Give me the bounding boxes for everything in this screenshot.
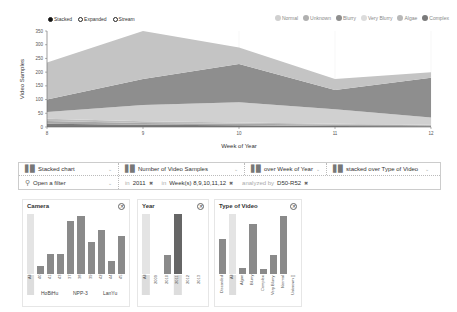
facet-bar-label: Complex <box>260 275 267 295</box>
facet-bar-label: All <box>142 275 150 295</box>
dimension-icon: ▋▉ <box>251 165 261 173</box>
mode-option-expanded[interactable]: Expanded <box>78 16 107 22</box>
svg-text:50: 50 <box>38 111 44 116</box>
measure-icon: ▋▉ <box>125 165 135 173</box>
x-dimension-dropdown[interactable]: ▋▉ over Week of Year ⌄ <box>245 163 327 175</box>
chevron-down-icon: ⌄ <box>108 180 112 186</box>
toolbar-row-filters: ⚲ Open a filter ⌄ in 2011 ✖ in Week(s) 8… <box>19 176 440 189</box>
facet-bar-label: Blurry <box>249 275 256 295</box>
filter-chip-analyzer[interactable]: analyzed by D50-R52 ✖ <box>242 180 308 186</box>
close-icon[interactable]: ✕ <box>197 203 204 210</box>
facet-type-of-video: Type of Video ✕ DiscardedAllAlgaeBlurryC… <box>214 199 302 307</box>
x-dimension-label: over Week of Year <box>264 166 313 172</box>
legend-swatch-icon <box>275 15 281 21</box>
facet-bar-2011[interactable] <box>174 214 182 274</box>
facet-bar-label: 43 <box>57 275 64 295</box>
facet-bar-2009[interactable] <box>153 214 161 274</box>
close-icon[interactable]: ✕ <box>118 203 125 210</box>
facet-bar-45[interactable] <box>118 214 125 274</box>
group-label: NPP-3 <box>73 290 88 296</box>
chart-type-dropdown[interactable]: ▋▉ Stacked chart ⌄ <box>19 163 119 175</box>
svg-text:150: 150 <box>35 83 43 88</box>
legend-swatch-icon <box>303 15 309 21</box>
facet-labels: All20092010201120122013 <box>142 275 204 295</box>
facet-bar-label: Discarded <box>219 275 226 295</box>
measure-dropdown[interactable]: ▋▉ Number of Video Samples ⌄ <box>119 163 245 175</box>
facet-bar-42[interactable] <box>98 214 105 274</box>
facet-bar-label: Very Blurry <box>270 275 277 295</box>
facet-bar-normal[interactable] <box>280 214 287 274</box>
facet-title: Type of Video <box>219 203 258 209</box>
facet-bars <box>142 214 204 274</box>
legend-item[interactable]: Unknown <box>303 15 331 21</box>
chevron-down-icon: ⌄ <box>425 166 429 172</box>
svg-text:300: 300 <box>35 42 43 47</box>
facet-bar-complex[interactable] <box>260 214 267 274</box>
chevron-down-icon: ⌄ <box>108 166 112 172</box>
radio-icon <box>78 17 83 22</box>
chevron-down-icon: ⌄ <box>316 166 320 172</box>
facet-bar-all[interactable] <box>229 214 236 274</box>
facet-bar-label: 2009 <box>153 275 161 295</box>
facet-bar-unknown-[interactable] <box>290 214 297 274</box>
filter-chip-year[interactable]: in 2011 ✖ <box>125 180 153 186</box>
legend-swatch-icon <box>361 15 367 21</box>
stacked-area-chart: 05010015020025030035089101112Week of Yea… <box>0 24 457 154</box>
facet-bar-label: 2011 <box>174 275 182 295</box>
facet-bars <box>219 214 297 274</box>
svg-text:10: 10 <box>236 131 242 136</box>
facet-bar-very-blurry[interactable] <box>270 214 277 274</box>
facet-labels: DiscardedAllAlgaeBlurryComplexVery Blurr… <box>219 275 297 295</box>
remove-filter-icon[interactable]: ✖ <box>304 180 308 186</box>
legend-item[interactable]: Algae <box>397 15 417 21</box>
mode-option-stacked[interactable]: Stacked <box>48 16 72 22</box>
facet-bar-41[interactable] <box>47 214 54 274</box>
svg-text:12: 12 <box>428 131 434 136</box>
svg-text:250: 250 <box>35 56 43 61</box>
svg-text:100: 100 <box>35 97 43 102</box>
facet-bar-algae[interactable] <box>239 214 246 274</box>
radio-icon <box>48 17 53 22</box>
chart-legend: NormalUnknownBlurryVery BlurryAlgaeCompl… <box>275 15 449 21</box>
y-axis-label: Video Samples <box>19 59 25 99</box>
close-icon[interactable]: ✕ <box>290 203 297 210</box>
stack-dimension-label: stacked over Type of Video <box>346 166 418 172</box>
facet-bar-2013[interactable] <box>196 214 204 274</box>
facet-bar-all[interactable] <box>27 214 34 274</box>
search-icon: ⚲ <box>25 179 30 187</box>
legend-item[interactable]: Very Blurry <box>361 15 392 21</box>
facet-bar-37[interactable] <box>67 214 74 274</box>
filter-chip-weeks[interactable]: in Week(s) 8,9,10,11,12 ✖ <box>162 180 233 186</box>
mode-option-stream[interactable]: Stream <box>113 16 135 22</box>
facet-year: Year ✕ All20092010201120122013 <box>137 199 209 307</box>
facet-bar-all[interactable] <box>142 214 150 274</box>
open-filter-dropdown[interactable]: ⚲ Open a filter ⌄ <box>19 176 119 189</box>
stack-dimension-dropdown[interactable]: ▋▉ stacked over Type of Video ⌄ <box>327 163 440 175</box>
facet-bar-label: All <box>229 275 236 295</box>
radio-icon <box>113 17 118 22</box>
remove-filter-icon[interactable]: ✖ <box>149 180 153 186</box>
group-label: HoBiHu <box>41 290 58 296</box>
facet-bar-blurry[interactable] <box>249 214 256 274</box>
active-filters: in 2011 ✖ in Week(s) 8,9,10,11,12 ✖ anal… <box>119 176 440 189</box>
facet-bar-label: Unknown [] <box>290 275 297 295</box>
facet-bar-40[interactable] <box>37 214 44 274</box>
legend-swatch-icon <box>397 15 403 21</box>
facet-bar-2010[interactable] <box>164 214 172 274</box>
facet-bar-44[interactable] <box>108 214 115 274</box>
facet-bar-label: Algae <box>239 275 246 295</box>
facet-bar-label: 39 <box>88 275 95 295</box>
facet-bar-2012[interactable] <box>185 214 193 274</box>
facet-bar-discarded[interactable] <box>219 214 226 274</box>
svg-text:0: 0 <box>40 125 43 130</box>
legend-item[interactable]: Blurry <box>336 15 356 21</box>
legend-item[interactable]: Complex <box>422 15 449 21</box>
x-axis-label: Week of Year <box>221 143 257 149</box>
facet-bar-43[interactable] <box>57 214 64 274</box>
remove-filter-icon[interactable]: ✖ <box>229 180 233 186</box>
facet-bar-39[interactable] <box>88 214 95 274</box>
facet-bar-38[interactable] <box>77 214 84 274</box>
facet-bar-label: 45 <box>118 275 125 295</box>
legend-item[interactable]: Normal <box>275 15 298 21</box>
chart-mode-selector: StackedExpandedStream <box>48 16 135 22</box>
